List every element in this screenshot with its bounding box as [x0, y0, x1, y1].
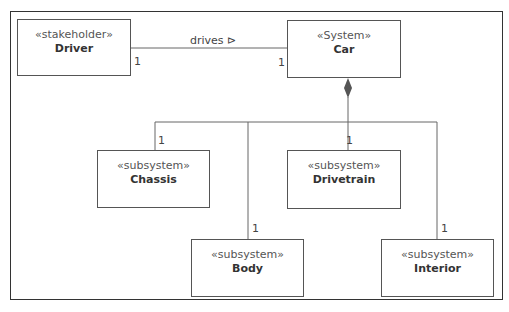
- multiplicity-drivetrain: 1: [346, 134, 353, 147]
- stereotype-label: «subsystem»: [288, 159, 400, 172]
- block-name: Interior: [382, 262, 493, 275]
- block-name: Drivetrain: [288, 173, 400, 186]
- block-name: Driver: [18, 42, 130, 55]
- block-drivetrain[interactable]: «subsystem» Drivetrain: [287, 150, 401, 209]
- block-name: Chassis: [98, 173, 209, 186]
- stereotype-label: «System»: [288, 29, 400, 42]
- block-body[interactable]: «subsystem» Body: [191, 239, 304, 297]
- block-chassis[interactable]: «subsystem» Chassis: [97, 150, 210, 208]
- multiplicity-chassis: 1: [158, 134, 165, 147]
- association-label: drives ⊳: [190, 34, 236, 47]
- multiplicity-car: 1: [278, 56, 285, 69]
- block-interior[interactable]: «subsystem» Interior: [381, 239, 494, 297]
- stereotype-label: «subsystem»: [98, 159, 209, 172]
- multiplicity-driver: 1: [134, 55, 141, 68]
- block-name: Car: [288, 43, 400, 56]
- stereotype-label: «subsystem»: [192, 248, 303, 261]
- composition-diamond-icon: [344, 78, 352, 98]
- block-driver[interactable]: «stakeholder» Driver: [17, 19, 131, 76]
- stereotype-label: «stakeholder»: [18, 28, 130, 41]
- stereotype-label: «subsystem»: [382, 248, 493, 261]
- block-name: Body: [192, 262, 303, 275]
- block-car[interactable]: «System» Car: [287, 20, 401, 78]
- multiplicity-body: 1: [252, 222, 259, 235]
- multiplicity-interior: 1: [441, 222, 448, 235]
